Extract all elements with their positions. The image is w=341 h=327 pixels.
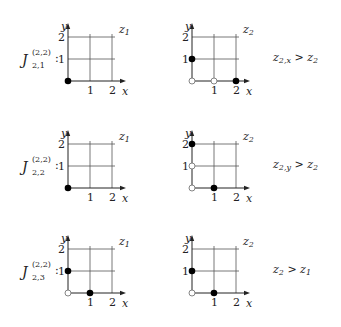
x-arrow-icon — [244, 291, 250, 295]
x-arrow-icon — [120, 291, 126, 295]
x-tick-2: 2 — [109, 191, 116, 204]
subscript: 2,2 — [32, 168, 45, 177]
x-arrow-icon — [244, 79, 250, 83]
y-tick-1: 1 — [58, 265, 65, 278]
y-axis-label: y — [184, 127, 192, 140]
filled-point — [211, 290, 218, 297]
relation-text: z2 > z1 — [272, 263, 311, 277]
subscript: 2,1 — [32, 61, 45, 70]
relation-label: z2,y > z2 — [272, 158, 318, 172]
operator-symbol: J — [19, 264, 29, 280]
x-tick-1: 1 — [211, 84, 218, 97]
filled-point — [211, 185, 218, 192]
lattice-diagram: J(2,2)2,1:12x12yz112x12yz2z2,x > z2J(2,2… — [0, 0, 341, 327]
x-tick-2: 2 — [233, 84, 240, 97]
open-point — [189, 290, 195, 296]
y-axis-label: y — [60, 20, 68, 33]
grid-right: 12x12yz2 — [182, 20, 254, 98]
x-tick-1: 1 — [87, 84, 94, 97]
filled-point — [65, 78, 72, 85]
filled-point — [189, 56, 196, 63]
x-axis-label: x — [122, 192, 129, 205]
y-tick-1: 1 — [182, 265, 189, 278]
x-arrow-icon — [120, 79, 126, 83]
x-axis-label: x — [122, 297, 129, 310]
x-axis-label: x — [246, 192, 253, 205]
filled-point — [189, 141, 196, 148]
y-tick-1: 1 — [182, 160, 189, 173]
grid-left: 12x12yz1 — [58, 20, 130, 98]
variable-label: z2 — [242, 235, 254, 249]
row-label: J(2,2)2,2: — [19, 155, 59, 177]
grid-left: 12x12yz1 — [58, 232, 130, 310]
grid-left: 12x12yz1 — [58, 127, 130, 205]
x-arrow-icon — [120, 186, 126, 190]
x-axis-label: x — [122, 85, 129, 98]
relation-text: z2,x > z2 — [272, 51, 318, 65]
grid-right: 12x12yz2 — [182, 232, 254, 310]
y-axis-label: y — [184, 20, 192, 33]
x-tick-1: 1 — [87, 296, 94, 309]
x-tick-1: 1 — [211, 296, 218, 309]
variable-label: z2 — [242, 23, 254, 37]
relation-label: z2,x > z2 — [272, 51, 318, 65]
filled-point — [87, 290, 94, 297]
x-arrow-icon — [244, 186, 250, 190]
operator-symbol: J — [19, 52, 29, 68]
row-label: J(2,2)2,3: — [19, 260, 59, 282]
y-tick-1: 1 — [58, 160, 65, 173]
superscript: (2,2) — [32, 155, 51, 164]
x-axis-label: x — [246, 297, 253, 310]
filled-point — [65, 185, 72, 192]
grid-right: 12x12yz2 — [182, 127, 254, 205]
filled-point — [65, 268, 72, 275]
open-point — [189, 185, 195, 191]
y-axis-label: y — [60, 232, 68, 245]
relation-text: z2,y > z2 — [272, 158, 318, 172]
open-point — [189, 163, 195, 169]
y-tick-1: 1 — [182, 53, 189, 66]
x-axis-label: x — [246, 85, 253, 98]
superscript: (2,2) — [32, 48, 51, 57]
y-axis-label: y — [184, 232, 192, 245]
relation-label: z2 > z1 — [272, 263, 311, 277]
y-tick-1: 1 — [58, 53, 65, 66]
filled-point — [189, 268, 196, 275]
x-tick-2: 2 — [233, 191, 240, 204]
x-tick-2: 2 — [233, 296, 240, 309]
operator-symbol: J — [19, 159, 29, 175]
x-tick-2: 2 — [109, 296, 116, 309]
open-point — [189, 78, 195, 84]
variable-label: z1 — [118, 235, 130, 249]
y-axis-label: y — [60, 127, 68, 140]
open-point — [65, 290, 71, 296]
x-tick-1: 1 — [211, 191, 218, 204]
open-point — [211, 78, 217, 84]
superscript: (2,2) — [32, 260, 51, 269]
filled-point — [233, 78, 240, 85]
variable-label: z1 — [118, 23, 130, 37]
x-tick-2: 2 — [109, 84, 116, 97]
variable-label: z1 — [118, 130, 130, 144]
variable-label: z2 — [242, 130, 254, 144]
row-label: J(2,2)2,1: — [19, 48, 59, 70]
x-tick-1: 1 — [87, 191, 94, 204]
subscript: 2,3 — [32, 273, 45, 282]
